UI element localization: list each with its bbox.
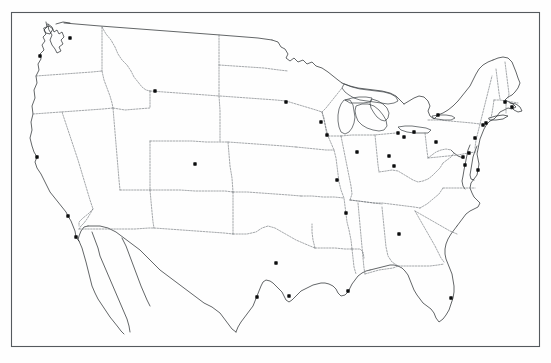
city-marker — [319, 120, 322, 123]
city-marker — [461, 155, 464, 158]
city-marker — [74, 235, 77, 238]
mexico-mainland-outline — [122, 238, 150, 306]
city-marker — [284, 100, 287, 103]
border-nh-me — [505, 62, 509, 98]
border-sd-ne — [220, 96, 286, 101]
city-marker — [66, 214, 69, 217]
border-ok-tx — [233, 226, 315, 248]
city-marker — [355, 150, 358, 153]
baja-california-outline — [79, 241, 124, 334]
border-ar-tx-vertical — [312, 224, 315, 248]
lake-michigan-outline — [338, 100, 355, 134]
border-ky-oh-wv — [379, 163, 443, 182]
lake-superior-north-shore — [342, 83, 404, 104]
city-marker — [434, 140, 437, 143]
city-marker — [387, 154, 390, 157]
city-marker — [449, 296, 452, 299]
city-marker — [255, 295, 258, 298]
border-sc-ga — [415, 211, 444, 262]
minnesota-northern-border — [272, 40, 342, 83]
city-marker — [335, 178, 338, 181]
map-outlines — [30, 22, 522, 334]
city-marker — [193, 162, 196, 165]
border-la-ms-vertical — [352, 249, 356, 274]
city-marker — [412, 130, 415, 133]
us-map-svg — [0, 0, 551, 363]
city-marker — [503, 100, 506, 103]
long-island-outline — [489, 115, 508, 120]
border-vt-nh — [496, 69, 500, 99]
west-coast-outline — [30, 22, 79, 241]
northern-border-west — [64, 23, 272, 40]
city-marker — [344, 211, 347, 214]
border-ks-ok — [233, 192, 301, 196]
border-or-ca-nv — [33, 108, 113, 114]
city-marker — [392, 164, 395, 167]
city-marker — [510, 105, 513, 108]
city-marker — [481, 123, 484, 126]
border-ne-ks — [228, 142, 296, 147]
border-mo-ar — [301, 196, 344, 198]
city-marker — [463, 163, 466, 166]
city-marker — [38, 54, 41, 57]
border-il-in — [341, 136, 352, 200]
border-ar-la — [315, 248, 352, 249]
border-ga-fl — [398, 264, 444, 266]
city-marker — [396, 131, 399, 134]
border-id-mt — [102, 27, 150, 91]
border-or-id — [102, 71, 113, 108]
border-ms-al — [358, 203, 365, 274]
border-id-wy — [113, 91, 150, 110]
border-ca-nv — [62, 112, 93, 226]
border-ut-nv — [113, 108, 120, 190]
maine-new-england-coast — [487, 57, 520, 124]
city-marker — [476, 168, 479, 171]
border-tn-nc-va — [420, 188, 443, 208]
city-marker — [436, 113, 439, 116]
border-mn-ia — [286, 101, 322, 112]
puget-sound-detail — [48, 24, 64, 53]
gulf-of-california-outline — [92, 232, 130, 332]
mid-atlantic-coast — [457, 124, 487, 226]
border-co-nm — [150, 190, 233, 192]
city-marker — [467, 151, 470, 154]
border-az-mexico — [79, 228, 154, 229]
city-marker — [68, 36, 71, 39]
border-mi-in-oh — [341, 133, 396, 136]
city-marker — [287, 294, 290, 297]
border-wa-or — [36, 71, 102, 76]
border-az-nm — [150, 190, 154, 228]
border-ma-ny-vertical — [491, 100, 494, 118]
border-oh-pa — [425, 133, 428, 158]
border-co-ks-ne — [228, 142, 233, 192]
city-marker — [484, 121, 487, 124]
border-nm-tx — [154, 228, 233, 234]
potomac-river — [451, 150, 463, 158]
border-in-oh — [375, 135, 379, 172]
city-marker — [274, 261, 277, 264]
border-al-ga — [382, 207, 398, 266]
border-nd-sd — [219, 65, 288, 71]
city-marker — [346, 289, 349, 292]
border-ny-vt-nh — [480, 76, 492, 124]
southeast-coast — [370, 226, 457, 322]
border-wy-co — [150, 141, 228, 142]
border-ia-mo — [296, 147, 334, 150]
gulf-coast — [236, 270, 370, 332]
city-marker — [473, 136, 476, 139]
city-marker — [153, 89, 156, 92]
border-wy-sd-ne — [219, 96, 220, 142]
city-marker-layer — [35, 36, 513, 299]
border-pa-ny — [428, 120, 480, 124]
border-mt-wy — [150, 91, 219, 96]
city-marker — [325, 133, 328, 136]
border-wv-va — [428, 149, 454, 163]
huron-canada-border — [404, 60, 493, 119]
border-tn-ms-al — [350, 200, 382, 204]
map-figure — [0, 0, 551, 363]
city-marker — [397, 232, 400, 235]
map-frame — [12, 13, 540, 347]
city-marker — [402, 135, 405, 138]
city-marker — [35, 155, 38, 158]
lake-huron-outline — [370, 99, 389, 121]
